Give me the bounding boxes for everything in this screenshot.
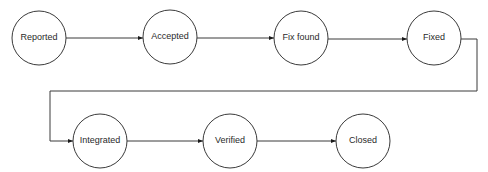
node-accepted: Accepted: [143, 10, 197, 64]
node-reported: Reported: [12, 11, 66, 65]
node-fix-found: Fix found: [274, 11, 328, 65]
node-fixed: Fixed: [407, 11, 461, 65]
node-closed: Closed: [336, 114, 390, 168]
state-diagram: Reported Accepted Fix found Fixed Integr…: [0, 0, 488, 172]
node-label: Verified: [215, 135, 245, 145]
node-verified: Verified: [203, 114, 257, 168]
node-integrated: Integrated: [73, 114, 127, 168]
node-label: Fixed: [423, 32, 445, 42]
node-label: Fix found: [282, 32, 319, 42]
node-label: Closed: [349, 135, 377, 145]
node-label: Integrated: [80, 135, 121, 145]
node-label: Reported: [20, 32, 57, 42]
node-label: Accepted: [151, 31, 189, 41]
